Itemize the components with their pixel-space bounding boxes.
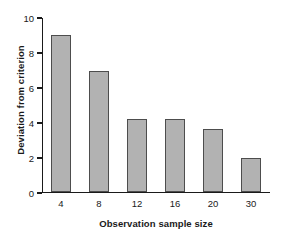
x-axis-tick-label: 20 — [208, 198, 219, 209]
x-axis-tick-label: 12 — [132, 198, 143, 209]
y-axis-tick — [37, 157, 42, 158]
bar — [241, 158, 261, 192]
bar — [89, 71, 109, 192]
bar — [165, 119, 185, 192]
y-axis-tick-label: 10 — [23, 13, 34, 24]
y-axis-tick — [37, 192, 42, 193]
y-axis-tick — [37, 52, 42, 53]
y-axis-title: Deviation from criterion — [14, 5, 28, 195]
bar — [203, 129, 223, 192]
bar — [127, 119, 147, 192]
y-axis-tick-label: 2 — [29, 153, 34, 164]
y-axis-tick-label: 4 — [29, 118, 34, 129]
x-axis-tick-label: 8 — [96, 198, 101, 209]
x-axis-tick-label: 4 — [58, 198, 63, 209]
plot-area: 02468104812162030 — [42, 18, 270, 193]
bar-series — [42, 18, 270, 193]
x-axis-tick-label: 30 — [246, 198, 257, 209]
y-axis-tick-label: 8 — [29, 48, 34, 59]
y-axis-tick-label: 6 — [29, 83, 34, 94]
y-axis-tick — [37, 87, 42, 88]
bar-chart-figure: Deviation from criterion 024681048121620… — [0, 0, 284, 239]
bar — [51, 35, 71, 193]
y-axis-tick-label: 0 — [29, 188, 34, 199]
x-axis-title: Observation sample size — [42, 218, 270, 229]
x-axis-tick-label: 16 — [170, 198, 181, 209]
y-axis-tick — [37, 122, 42, 123]
y-axis-tick — [37, 17, 42, 18]
